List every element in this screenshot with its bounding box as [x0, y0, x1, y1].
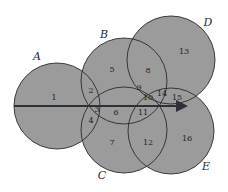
set-label-b: B: [99, 28, 108, 41]
region-label-2: 2: [88, 86, 93, 95]
region-label-16: 16: [182, 134, 192, 143]
region-label-15: 15: [172, 93, 182, 102]
set-label-c: C: [98, 169, 107, 182]
set-label-d: D: [203, 16, 213, 29]
region-label-9: 9: [136, 83, 141, 92]
region-label-7: 7: [109, 138, 114, 147]
region-label-8: 8: [145, 66, 150, 75]
region-label-6: 6: [113, 108, 118, 117]
venn-diagram: 12345678910111213141516 ABCDE: [0, 0, 228, 192]
region-label-11: 11: [138, 108, 148, 117]
region-label-5: 5: [109, 65, 114, 74]
set-label-e: E: [201, 160, 210, 173]
circle-fills: [14, 16, 215, 174]
region-label-12: 12: [143, 138, 153, 147]
region-label-4: 4: [88, 116, 93, 125]
region-label-10: 10: [143, 93, 153, 102]
region-label-1: 1: [51, 93, 56, 102]
region-label-14: 14: [157, 89, 167, 98]
region-label-3: 3: [94, 105, 99, 114]
set-label-a: A: [32, 50, 41, 63]
region-label-13: 13: [179, 47, 189, 56]
